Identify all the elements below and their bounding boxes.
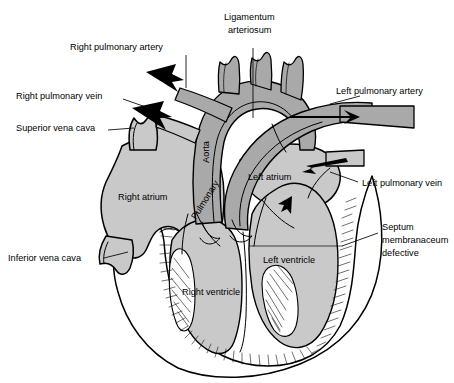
heart-diagram-figure: Right pulmonary artery Right pulmonary v… xyxy=(0,0,454,383)
label-aorta: Aorta xyxy=(201,140,211,163)
label-left-pulmonary-artery: Left pulmonary artery xyxy=(336,86,423,96)
label-left-pulmonary-vein: Left pulmonary vein xyxy=(362,178,442,188)
label-pulmonary: Pulmonary xyxy=(189,178,221,221)
label-septum-line1: Septum xyxy=(382,222,414,232)
label-inferior-vena-cava: Inferior vena cava xyxy=(8,253,82,263)
label-ligamentum-arteriosum-line1: Ligamentum xyxy=(224,12,275,22)
label-left-atrium: Left atrium xyxy=(248,172,292,182)
label-left-ventricle: Left ventricle xyxy=(263,255,315,265)
label-septum-line2: membranaceum xyxy=(382,235,449,245)
label-right-pulmonary-artery: Right pulmonary artery xyxy=(70,42,163,52)
label-superior-vena-cava: Superior vena cava xyxy=(16,123,96,133)
label-right-pulmonary-vein: Right pulmonary vein xyxy=(16,91,102,101)
label-layer: Right pulmonary artery Right pulmonary v… xyxy=(0,0,454,383)
label-right-atrium: Right atrium xyxy=(118,192,168,202)
label-right-ventricle: Right ventricle xyxy=(182,287,240,297)
label-septum-line3: defective xyxy=(382,248,419,258)
label-ligamentum-arteriosum-line2: arteriosum xyxy=(228,25,272,35)
